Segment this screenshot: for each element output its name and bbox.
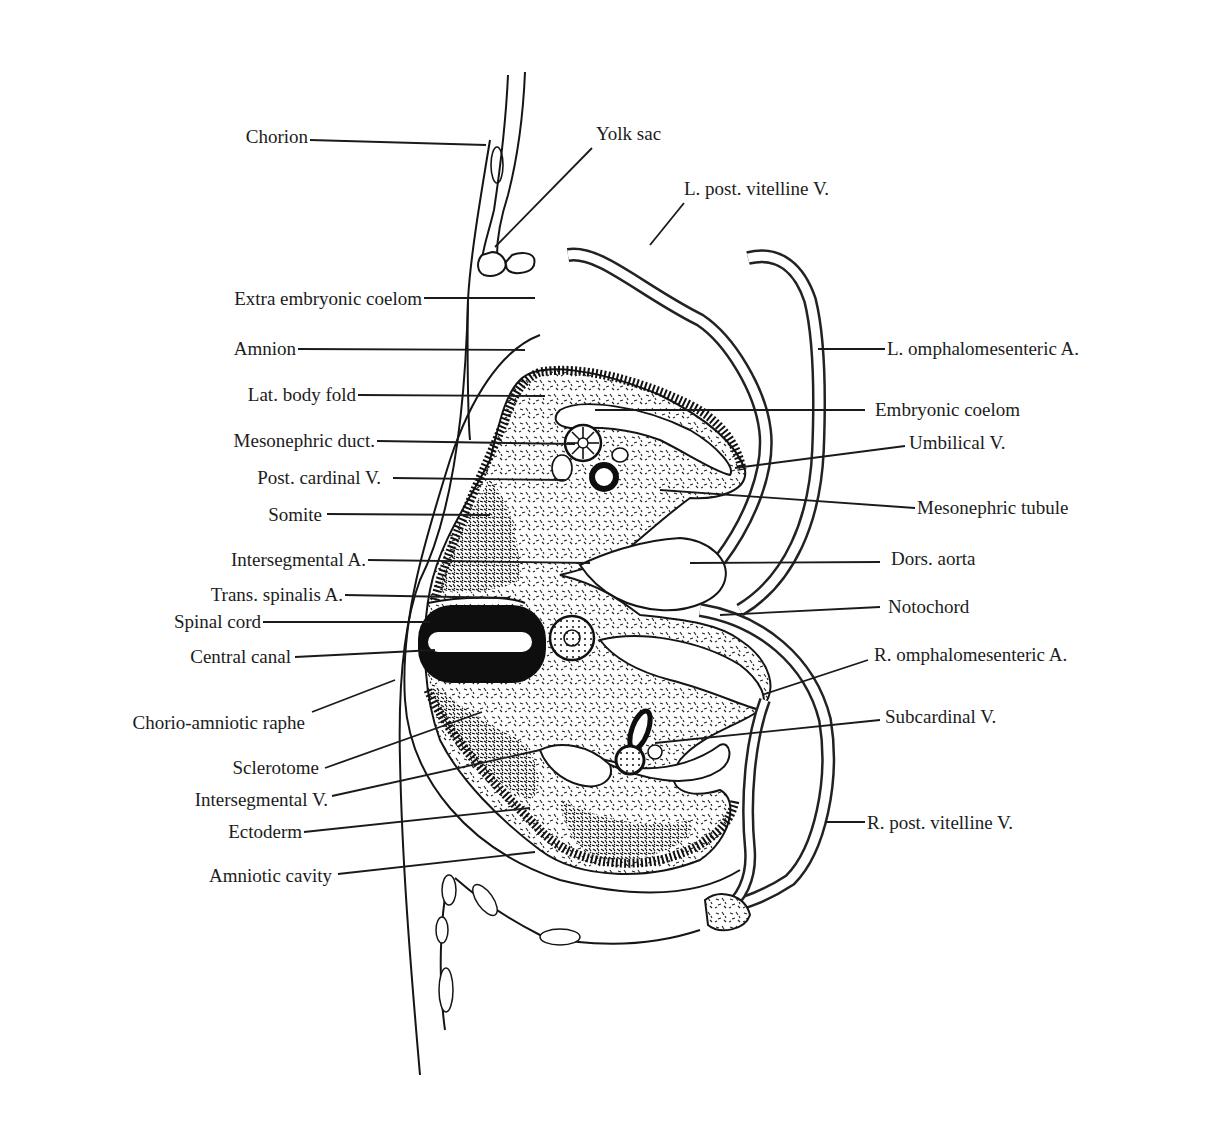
label-chorion: Chorion: [246, 126, 309, 147]
embryo-cross-section-diagram: Chorion Extra embryonic coelom Amnion La…: [0, 0, 1224, 1135]
label-l-omphalomesenteric-a: L. omphalomesenteric A.: [887, 338, 1079, 359]
label-somite: Somite: [268, 504, 322, 525]
label-extra-embryonic-coelom: Extra embryonic coelom: [234, 288, 422, 309]
yolk-sac-shape: [478, 252, 534, 276]
label-trans-spinalis-a: Trans. spinalis A.: [211, 584, 343, 605]
label-chorio-amniotic-raphe: Chorio-amniotic raphe: [132, 712, 305, 733]
label-notochord: Notochord: [888, 596, 970, 617]
label-intersegmental-v: Intersegmental V.: [195, 789, 328, 810]
label-post-cardinal-v: Post. cardinal V.: [257, 467, 381, 488]
label-dors-aorta: Dors. aorta: [891, 548, 976, 569]
label-embryonic-coelom: Embryonic coelom: [875, 399, 1020, 420]
label-intersegmental-a: Intersegmental A.: [231, 549, 366, 570]
spinal-cord-shape: [418, 598, 546, 683]
label-mesonephric-tubule: Mesonephric tubule: [917, 497, 1068, 518]
label-lat-body-fold: Lat. body fold: [248, 384, 357, 405]
label-r-post-vitelline-v: R. post. vitelline V.: [867, 812, 1013, 833]
label-umbilical-v: Umbilical V.: [909, 432, 1005, 453]
label-subcardinal-v: Subcardinal V.: [885, 706, 996, 727]
label-spinal-cord: Spinal cord: [174, 611, 262, 632]
label-sclerotome: Sclerotome: [232, 757, 319, 778]
notochord-shape: [550, 616, 594, 660]
lower-yolk-membrane: [436, 875, 700, 1030]
label-central-canal: Central canal: [190, 646, 291, 667]
label-ectoderm: Ectoderm: [228, 821, 302, 842]
label-r-omphalomesenteric-a: R. omphalomesenteric A.: [874, 644, 1067, 665]
label-l-post-vitelline-v: L. post. vitelline V.: [684, 178, 829, 199]
label-mesonephric-duct: Mesonephric duct.: [234, 430, 375, 451]
label-amnion: Amnion: [234, 338, 297, 359]
label-amniotic-cavity: Amniotic cavity: [209, 865, 332, 886]
labels-left: Chorion Extra embryonic coelom Amnion La…: [132, 126, 422, 886]
label-yolk-sac: Yolk sac: [596, 123, 661, 144]
